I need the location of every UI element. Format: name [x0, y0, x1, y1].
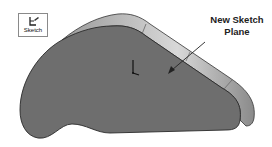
part-face	[20, 26, 240, 138]
callout-label: New Sketch Plane	[205, 14, 269, 38]
callout-line-1: New Sketch	[205, 14, 269, 26]
callout-line-2: Plane	[205, 26, 269, 38]
